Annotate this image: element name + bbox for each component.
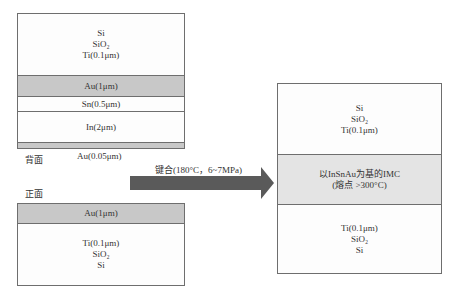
layer-text-sio2: SiO₂ [92, 39, 109, 50]
layer-text-sio2: SiO₂ [351, 114, 368, 125]
layer-text-ti: Ti(0.1μm) [341, 223, 378, 234]
bottom-ti-sio2-si-layer: Ti(0.1μm) SiO₂ Si [278, 204, 441, 273]
imc-layer: 以InSnAu为基的IMC (熔点 >300°C) [278, 154, 441, 204]
layer-text-sio2: SiO₂ [92, 249, 109, 260]
sn-layer: Sn(0.5μm) [18, 96, 184, 111]
layer-text-sn: Sn(0.5μm) [82, 99, 121, 110]
top-wafer-stack: Si SiO₂ Ti(0.1μm) Au(1μm) Sn(0.5μm) In(2… [17, 13, 185, 149]
bonding-arrow-icon [128, 165, 276, 201]
si-sio2-ti-layer: Si SiO₂ Ti(0.1μm) [18, 14, 184, 75]
layer-text-si: Si [356, 103, 364, 114]
layer-text-sio2: SiO₂ [351, 234, 368, 245]
bonded-stack: Si SiO₂ Ti(0.1μm) 以InSnAu为基的IMC (熔点 >300… [277, 83, 442, 274]
thin-au-layer [18, 142, 184, 148]
layer-text-au: Au(1μm) [84, 208, 117, 219]
in-layer: In(2μm) [18, 111, 184, 142]
au-layer-front: Au(1μm) [18, 204, 184, 223]
bottom-wafer-stack: Au(1μm) Ti(0.1μm) SiO₂ Si [17, 203, 185, 286]
layer-text-au: Au(1μm) [84, 81, 117, 92]
ti-sio2-si-layer: Ti(0.1μm) SiO₂ Si [18, 223, 184, 285]
melting-point-text: (熔点 >300°C) [332, 180, 386, 191]
layer-text-ti: Ti(0.1μm) [341, 125, 378, 136]
imc-text: 以InSnAu为基的IMC [319, 169, 400, 180]
layer-text-ti: Ti(0.1μm) [83, 238, 120, 249]
top-si-sio2-ti-layer: Si SiO₂ Ti(0.1μm) [278, 84, 441, 154]
thin-au-label: Au(0.05μm) [77, 151, 122, 161]
au-layer: Au(1μm) [18, 75, 184, 96]
back-side-label: 背面 [25, 153, 43, 166]
layer-text-si: Si [97, 28, 105, 39]
layer-text-si: Si [356, 245, 364, 256]
layer-text-in: In(2μm) [86, 122, 116, 133]
layer-text-ti: Ti(0.1μm) [83, 50, 120, 61]
front-side-label: 正面 [25, 187, 43, 200]
layer-text-si: Si [97, 260, 105, 271]
